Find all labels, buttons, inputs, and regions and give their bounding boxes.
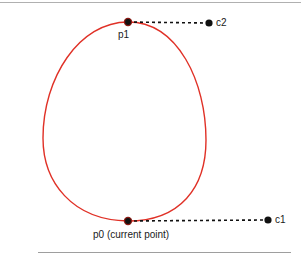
label-p0: p0 (current point) bbox=[93, 230, 169, 240]
point-p1-marker[interactable] bbox=[125, 19, 131, 25]
label-c2: c2 bbox=[216, 18, 227, 28]
handle-line-p0-c1 bbox=[128, 220, 266, 221]
point-p0-marker[interactable] bbox=[125, 218, 131, 224]
label-p1: p1 bbox=[118, 30, 129, 40]
point-c1-marker[interactable] bbox=[264, 216, 271, 223]
diagram-canvas: p1 p0 (current point) c2 c1 bbox=[0, 0, 301, 264]
point-c2-marker[interactable] bbox=[205, 19, 212, 26]
label-c1: c1 bbox=[275, 215, 286, 225]
bezier-diagram-svg bbox=[0, 0, 301, 264]
bezier-curve-path bbox=[43, 22, 206, 221]
